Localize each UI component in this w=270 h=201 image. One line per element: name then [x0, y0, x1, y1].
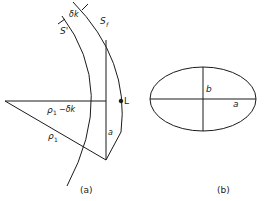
figure-b-labels: b a (b) [206, 84, 239, 195]
point-l [119, 99, 123, 103]
figure-a-labels: δk S' S f L a ρ 1 −δk ρ 1 (a) [47, 10, 129, 195]
label-a-ellipse: a [233, 99, 239, 109]
label-rho-minus-suffix: −δk [59, 105, 76, 114]
figure-b [150, 67, 256, 131]
label-rho-minus-sub: 1 [53, 109, 57, 116]
label-rho-sub: 1 [54, 136, 58, 143]
caption-a: (a) [80, 185, 93, 195]
label-l: L [124, 96, 129, 106]
diagram-canvas: δk S' S f L a ρ 1 −δk ρ 1 (a) b a (b) [0, 0, 270, 201]
caption-b: (b) [217, 185, 230, 195]
label-a: a [108, 128, 113, 137]
label-b: b [206, 84, 212, 94]
tick-s-prime [58, 19, 65, 24]
tick-s-f [82, 4, 88, 10]
arc-s-f [73, 2, 122, 132]
label-s-prime: S' [60, 26, 68, 36]
label-s-f-sub: f [106, 21, 109, 28]
label-delta-k: δk [69, 10, 79, 19]
